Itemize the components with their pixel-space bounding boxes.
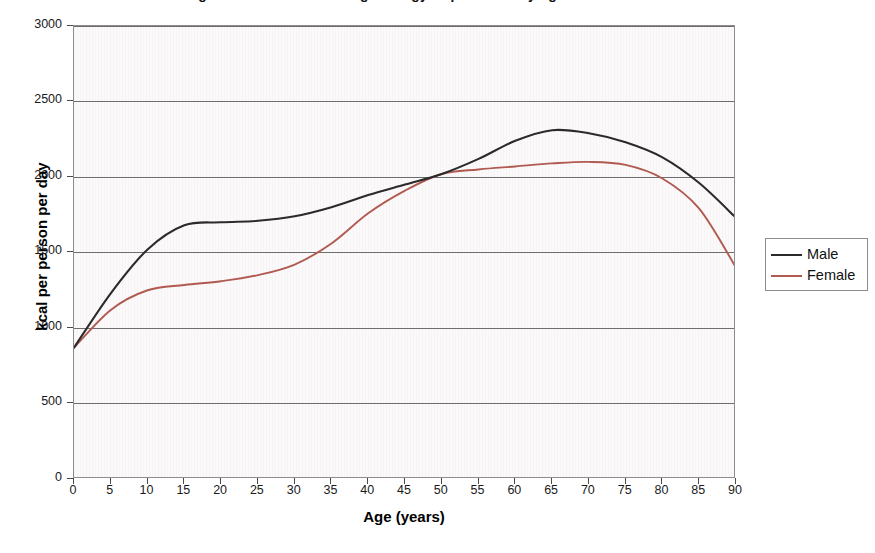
xtick-label-15: 15 [168,484,198,497]
ytick-mark-2000 [67,176,73,177]
xtick-label-5: 5 [95,484,125,497]
ytick-mark-1000 [67,327,73,328]
xtick-label-35: 35 [315,484,345,497]
legend-swatch-female-icon [771,275,802,277]
y-axis-title: kcal per person per day [33,87,50,407]
xtick-label-80: 80 [646,484,676,497]
xtick-label-90: 90 [720,484,750,497]
series-line-male [74,130,735,348]
legend-label-male: Male [807,247,838,262]
ytick-label-0: 0 [55,471,62,484]
xtick-label-45: 45 [389,484,419,497]
xtick-label-65: 65 [536,484,566,497]
legend-item-female: Female [766,265,867,286]
legend-swatch-male-icon [771,254,802,256]
xtick-label-40: 40 [352,484,382,497]
xtick-label-70: 70 [573,484,603,497]
xtick-label-60: 60 [499,484,529,497]
ytick-mark-3000 [67,25,73,26]
xtick-label-75: 75 [610,484,640,497]
series-line-female [74,162,735,348]
ytick-mark-2500 [67,100,73,101]
chart-legend: Male Female [765,238,868,291]
xtick-label-55: 55 [463,484,493,497]
xtick-label-30: 30 [279,484,309,497]
chart-figure: Figure 1. Estimated average energy requi… [0,0,875,553]
chart-title: Figure 1. Estimated average energy requi… [73,0,735,2]
x-axis-title: Age (years) [73,508,735,525]
ytick-mark-500 [67,402,73,403]
legend-item-male: Male [766,244,867,265]
legend-label-female: Female [807,268,855,283]
xtick-label-50: 50 [426,484,456,497]
ytick-label-3000: 3000 [34,18,62,31]
xtick-label-20: 20 [205,484,235,497]
xtick-label-10: 10 [132,484,162,497]
plot-area [73,25,735,478]
xtick-label-85: 85 [683,484,713,497]
xtick-label-0: 0 [58,484,88,497]
xtick-label-25: 25 [242,484,272,497]
series-plot [74,26,735,478]
ytick-mark-1500 [67,251,73,252]
